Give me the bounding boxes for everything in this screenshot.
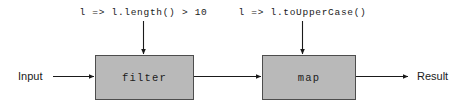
annotation-map-lambda: l => l.toUpperCase()	[202, 7, 403, 19]
endpoint-label-input: Input	[18, 70, 42, 83]
node-map: map	[262, 55, 356, 100]
endpoint-label-result: Result	[417, 70, 448, 83]
node-map-label: map	[298, 72, 321, 84]
pipeline-diagram: l => l.length() > 10 l => l.toUpperCase(…	[0, 0, 464, 107]
node-filter-label: filter	[122, 72, 167, 84]
node-filter: filter	[95, 55, 194, 100]
